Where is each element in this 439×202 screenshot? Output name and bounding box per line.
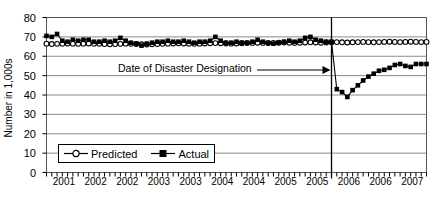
x-axis-tick-label: 2003 [179,176,201,187]
data-point [371,40,376,45]
data-point [49,42,54,47]
data-point [76,38,81,43]
data-point [377,68,382,73]
filled-square-icon [151,148,175,159]
chart-legend: Predicted Actual [58,144,215,163]
data-point [329,39,334,44]
data-point [345,95,350,100]
data-point [118,36,123,41]
data-point [271,41,276,46]
data-point [134,41,139,46]
data-point [387,66,392,71]
x-axis-tick-label: 2006 [369,176,391,187]
data-point [371,71,376,76]
data-point [176,39,181,44]
data-point [366,40,371,45]
data-point [414,40,419,45]
data-point [171,39,176,44]
data-point [377,40,382,45]
data-point [113,38,118,43]
data-point [108,39,113,44]
x-axis-tick-label: 2001 [53,176,75,187]
x-axis-tick-label: 2005 [306,176,328,187]
data-point [398,40,403,45]
data-point [345,40,350,45]
legend-item-predicted: Predicted [64,148,137,160]
data-point [419,62,424,67]
data-point [144,41,149,46]
data-point [118,41,123,46]
data-point [298,38,303,43]
data-point [44,34,49,39]
data-point [213,35,218,40]
data-point [382,40,387,45]
data-point [340,40,345,45]
data-point [245,40,250,45]
data-point [392,40,397,45]
data-point [355,40,360,45]
data-point [419,40,424,45]
data-point [292,39,297,44]
x-axis-tick-labels: 2001200220022003200320042004200520052006… [0,176,439,192]
data-point [303,36,308,41]
data-point [102,38,107,43]
legend-item-actual: Actual [151,148,209,160]
data-point [340,90,345,95]
x-axis-tick-label: 2007 [401,176,423,187]
data-point [424,62,429,67]
data-point [313,37,318,42]
data-point [287,38,292,43]
data-point [187,39,192,44]
data-point [224,40,229,45]
data-point [319,38,324,43]
data-point [197,39,202,44]
data-point [261,39,266,44]
data-point [160,39,165,44]
data-point [424,40,429,45]
x-axis-tick-label: 2004 [211,176,233,187]
data-point [361,78,366,83]
data-point [324,39,329,44]
data-point [382,68,387,73]
data-point [282,39,287,44]
data-point [97,39,102,44]
data-point [123,38,128,43]
legend-label-predicted: Predicted [91,148,137,160]
data-point [229,40,234,45]
x-axis-tick-label: 2006 [338,176,360,187]
data-point [350,88,355,93]
data-point [208,38,213,43]
data-point [403,40,408,45]
data-point [71,37,76,42]
data-point [86,37,91,42]
data-point [92,39,97,44]
data-point [81,37,86,42]
data-point [303,40,308,45]
data-point [150,40,155,45]
data-point [334,87,339,92]
data-point [55,41,60,46]
data-point [55,32,60,37]
x-axis-tick-label: 2004 [243,176,265,187]
data-point [65,39,70,44]
data-point [308,35,313,40]
data-point [255,37,260,42]
data-point [414,62,419,67]
data-point [408,39,413,44]
data-point [49,35,54,40]
annotation-label: Date of Disaster Designation [118,62,252,74]
data-point [139,43,144,48]
data-point [276,40,281,45]
data-point [350,40,355,45]
data-point [44,41,49,46]
data-point [393,63,398,68]
data-point [361,40,366,45]
data-point [129,40,134,45]
plot-area [0,0,439,202]
data-point [213,41,218,46]
annotation-arrowhead [323,66,331,74]
data-point [234,39,239,44]
data-point [266,40,271,45]
data-point [155,39,160,44]
data-point [203,39,208,44]
